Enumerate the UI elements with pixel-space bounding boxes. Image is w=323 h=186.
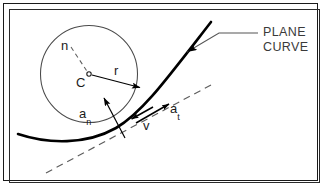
label-normal-direction: n: [61, 39, 68, 52]
label-radius: r: [114, 64, 118, 77]
normal-label-leader-dashed: [71, 47, 87, 71]
label-center: C: [76, 76, 85, 89]
label-tangential-acceleration-subscript: t: [177, 112, 180, 122]
label-velocity: v: [143, 119, 150, 132]
plane-curve-path: [18, 22, 211, 141]
annotation-plane-curve-line1: PLANE: [263, 25, 306, 39]
label-tangential-acceleration: at: [170, 102, 180, 119]
annotation-plane-curve: PLANECURVE: [263, 25, 309, 55]
plane-curve-leader-line: [187, 33, 258, 52]
tangent-dashed-line: [46, 85, 211, 173]
label-normal-acceleration: an: [79, 107, 91, 124]
label-normal-acceleration-subscript: n: [86, 117, 91, 127]
annotation-plane-curve-line2: CURVE: [263, 40, 309, 54]
center-point-marker: [87, 72, 91, 76]
diagram-page: n C r an v at PLANECURVE: [0, 0, 323, 186]
